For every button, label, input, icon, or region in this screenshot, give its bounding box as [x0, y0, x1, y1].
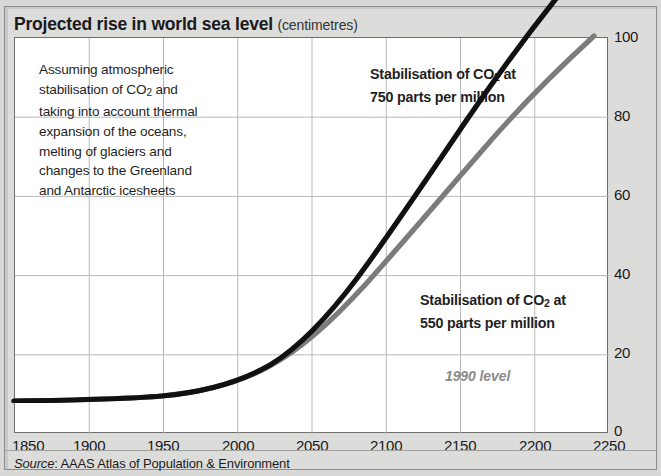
x-tick-2000: 2000: [222, 437, 254, 454]
x-tick-1900: 1900: [73, 437, 105, 454]
series-label-750ppm-line1a: Stabilisation of CO: [370, 66, 494, 82]
description-line-6: changes to the Greenland: [39, 163, 192, 178]
description-line-1: Assuming atmospheric: [39, 62, 174, 77]
x-tick-2150: 2150: [444, 437, 476, 454]
x-tick-2050: 2050: [296, 437, 328, 454]
source-text: : AAAS Atlas of Population & Environment: [54, 456, 289, 471]
x-tick-1850: 1850: [12, 437, 44, 454]
chart-figure: Projected rise in world sea level (centi…: [0, 0, 661, 476]
series-label-750ppm: Stabilisation of CO2 at 750 parts per mi…: [370, 64, 585, 107]
series-label-750ppm-line1b: at: [500, 66, 516, 82]
y-tick-80: 80: [614, 107, 630, 124]
y-tick-40: 40: [614, 265, 630, 282]
source-divider: [5, 450, 656, 451]
y-tick-100: 100: [614, 28, 638, 45]
page-title: Projected rise in world sea level (centi…: [14, 14, 614, 38]
description-line-7: and Antarctic icesheets: [39, 183, 175, 198]
description-line-5: melting of glaciers and: [39, 144, 172, 159]
series-label-550ppm-line2: 550 parts per million: [420, 315, 555, 331]
source-credit: Source: AAAS Atlas of Population & Envir…: [14, 456, 290, 471]
chart-title-main: Projected rise in world sea level: [14, 14, 273, 34]
chart-title-unit: (centimetres): [277, 17, 357, 33]
series-label-550ppm-line1a: Stabilisation of CO: [420, 292, 544, 308]
source-label: Source: [14, 456, 54, 471]
x-tick-2250: 2250: [593, 437, 625, 454]
x-tick-2200: 2200: [519, 437, 551, 454]
x-tick-2100: 2100: [370, 437, 402, 454]
description-line-4: expansion of the oceans,: [39, 124, 187, 139]
baseline-label-1990: 1990 level: [445, 368, 605, 384]
description-note: Assuming atmospheric stabilisation of CO…: [39, 60, 254, 200]
plot-area: Assuming atmospheric stabilisation of CO…: [14, 37, 608, 433]
description-line-2b: and: [152, 82, 178, 97]
series-label-750ppm-line2: 750 parts per million: [370, 89, 505, 105]
description-line-2a: stabilisation of CO: [39, 82, 146, 97]
description-line-3: taking into account thermal: [39, 104, 197, 119]
y-tick-60: 60: [614, 186, 630, 203]
x-tick-1950: 1950: [147, 437, 179, 454]
series-label-550ppm: Stabilisation of CO2 at 550 parts per mi…: [420, 290, 635, 333]
y-tick-20: 20: [614, 344, 630, 361]
series-label-550ppm-line1b: at: [550, 292, 566, 308]
